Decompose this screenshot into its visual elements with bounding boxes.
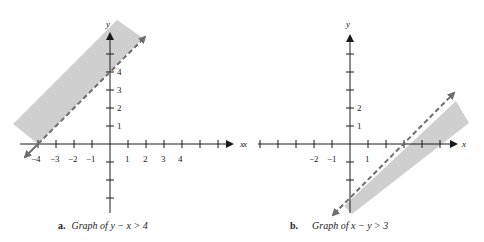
svg-text:3: 3 <box>161 154 166 164</box>
caption-a-text: Graph of y − x > 4 <box>72 220 148 231</box>
svg-text:−1: −1 <box>327 154 337 164</box>
svg-text:1: 1 <box>125 154 130 164</box>
caption-b: b.Graph of x − y > 3 <box>290 220 388 231</box>
caption-a-label: a. <box>58 220 66 231</box>
shaded-region-a <box>13 20 143 144</box>
caption-b-label: b. <box>290 220 298 231</box>
svg-text:1: 1 <box>365 154 370 164</box>
svg-text:3: 3 <box>117 85 122 95</box>
caption-a: a.Graph of y − x > 4 <box>58 220 148 231</box>
svg-text:−1: −1 <box>86 154 96 164</box>
svg-text:4: 4 <box>117 67 122 77</box>
caption-b-text: Graph of x − y > 3 <box>312 220 388 231</box>
graph-b: −2 −1 1 1 2 y x x <box>242 19 469 215</box>
svg-text:y: y <box>345 19 350 29</box>
svg-text:−4: −4 <box>31 154 41 164</box>
boundary-line-b <box>334 93 454 214</box>
svg-text:x: x <box>461 139 466 149</box>
svg-text:2: 2 <box>357 103 362 113</box>
graph-a: −4 −3 −2 −1 1 2 3 4 1 2 3 4 y x <box>13 19 244 213</box>
svg-text:4: 4 <box>178 154 183 164</box>
svg-text:−3: −3 <box>50 154 60 164</box>
svg-text:x: x <box>242 139 247 149</box>
svg-text:1: 1 <box>357 121 362 131</box>
svg-text:2: 2 <box>117 103 122 113</box>
svg-text:−2: −2 <box>68 154 78 164</box>
svg-text:y: y <box>105 19 110 29</box>
svg-text:2: 2 <box>143 154 148 164</box>
shaded-region-b <box>344 101 469 214</box>
graphs-canvas: −4 −3 −2 −1 1 2 3 4 1 2 3 4 y x <box>0 0 484 242</box>
svg-text:1: 1 <box>117 121 122 131</box>
svg-text:−2: −2 <box>309 154 319 164</box>
